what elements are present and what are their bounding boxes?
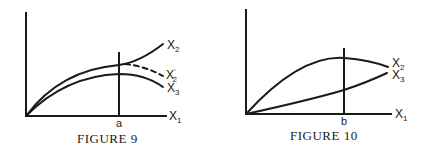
figure-9: X2 X'2 X3 X1 a FIGURE 9	[26, 12, 182, 146]
curve-x2	[246, 58, 388, 114]
figure-canvas: X2 X'2 X3 X1 a FIGURE 9 X2 X3 X1 b FIGUR…	[0, 0, 432, 157]
tick-label-a: a	[116, 117, 123, 129]
label-x1: X1	[169, 109, 182, 125]
label-x1: X1	[395, 107, 408, 123]
label-x3: X3	[167, 81, 180, 97]
tick-label-b: b	[341, 115, 347, 127]
curve-x2	[26, 44, 163, 116]
caption-figure-9: FIGURE 9	[77, 131, 138, 146]
label-x2: X2	[167, 38, 180, 54]
caption-figure-10: FIGURE 10	[290, 128, 358, 143]
figure-10: X2 X3 X1 b FIGURE 10	[246, 9, 408, 143]
